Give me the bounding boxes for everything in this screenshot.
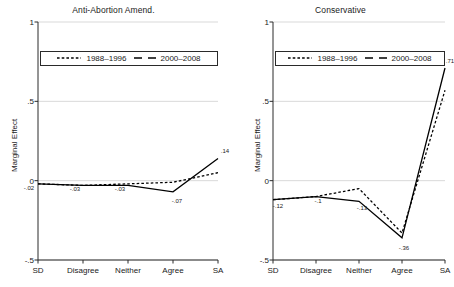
y-axis-label: Marginal Effect: [10, 86, 19, 206]
legend-entry: 1988–1996: [288, 54, 357, 63]
legend-dashed-line-icon: [365, 55, 387, 61]
data-point-label: -.03: [115, 186, 125, 192]
y-axis-tick-label: .5: [262, 97, 269, 106]
panel-title: Anti-Abortion Amend.: [0, 5, 227, 15]
data-point-label: -.1: [314, 198, 321, 204]
legend-entry: 2000–2008: [134, 54, 201, 63]
y-axis-label: Marginal Effect: [253, 86, 262, 206]
x-axis-tick-label: Disagree: [67, 266, 99, 275]
y-axis-tick-label: .5: [27, 97, 34, 106]
data-point-label: -.02: [24, 185, 34, 191]
legend-dotted-line-icon: [57, 55, 81, 61]
x-axis-tick-label: SD: [32, 266, 43, 275]
y-axis-tick-label: 0: [265, 176, 269, 185]
legend-entry: 2000–2008: [365, 54, 432, 63]
x-axis-tick-label: Neither: [346, 266, 372, 275]
data-point-label: -.36: [399, 245, 409, 251]
data-point-label: -.07: [172, 198, 182, 204]
x-axis-tick-label: Agree: [162, 266, 183, 275]
x-axis-tick-label: Neither: [115, 266, 141, 275]
legend: 1988–19962000–2008: [40, 51, 218, 66]
legend-label: 1988–1996: [86, 54, 126, 63]
y-axis-tick-label: 1: [30, 18, 34, 27]
plot-area: Marginal Effect -.50.51SDDisagreeNeither…: [273, 22, 445, 260]
legend-label: 1988–1996: [317, 54, 357, 63]
panel-title: Conservative: [227, 5, 454, 15]
plot-area: Marginal Effect -.50.51SDDisagreeNeither…: [38, 22, 218, 260]
legend-label: 2000–2008: [392, 54, 432, 63]
data-point-label: -.03: [70, 186, 80, 192]
y-axis-tick-label: 1: [265, 18, 269, 27]
y-axis-tick-label: -.5: [260, 256, 269, 265]
data-point-label: -.13: [357, 205, 367, 211]
y-axis-tick-label: 0: [30, 176, 34, 185]
data-point-label: -.12: [273, 203, 283, 209]
legend-dashed-line-icon: [134, 55, 156, 61]
legend-label: 2000–2008: [161, 54, 201, 63]
legend-entry: 1988–1996: [57, 54, 126, 63]
data-point-label: .71: [446, 58, 454, 64]
x-axis-tick-label: Disagree: [300, 266, 332, 275]
x-axis-tick-label: SD: [267, 266, 278, 275]
panel-conservative: Conservative Marginal Effect -.50.51SDDi…: [227, 0, 454, 287]
panel-anti-abortion-amend: Anti-Abortion Amend. Marginal Effect -.5…: [0, 0, 227, 287]
y-axis-tick-label: -.5: [25, 256, 34, 265]
legend: 1988–19962000–2008: [275, 51, 445, 66]
figure-two-panel-line-chart: Anti-Abortion Amend. Marginal Effect -.5…: [0, 0, 454, 287]
x-axis-tick-label: SA: [213, 266, 224, 275]
x-axis-tick-label: Agree: [391, 266, 412, 275]
x-axis-tick-label: SA: [440, 266, 451, 275]
legend-dotted-line-icon: [288, 55, 312, 61]
